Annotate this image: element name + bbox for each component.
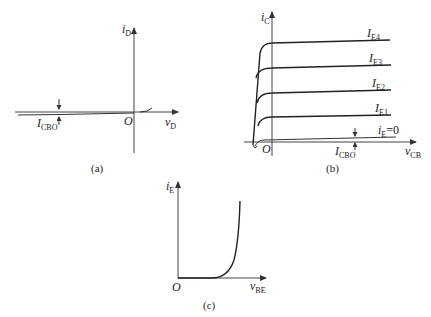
- icbo-label-a: ICBO: [36, 116, 58, 132]
- label-ie0: iE=0: [378, 123, 399, 139]
- curve-ie2: [257, 90, 391, 103]
- caption-b: (b): [326, 162, 339, 175]
- panel-b: iC vCB O IE4 IE3 IE2 IE1 iE=0 ICBO (b): [244, 10, 421, 175]
- curve-a-reverse: [18, 113, 134, 115]
- x-axis-label-c: vBE: [250, 279, 266, 295]
- y-axis-label-b: iC: [261, 10, 270, 26]
- diagram-canvas: iD vD O ICBO (a) iC vCB O IE4 IE3 IE2 IE…: [0, 0, 431, 317]
- label-ie4: IE4: [366, 26, 380, 42]
- panel-c: iE vBE O (c): [166, 179, 266, 312]
- origin-label-c: O: [172, 280, 181, 294]
- x-axis-label-a: vD: [165, 115, 176, 131]
- y-axis-label-c: iE: [166, 179, 174, 195]
- label-ie2: IE2: [371, 76, 385, 92]
- origin-label-b: O: [262, 142, 271, 156]
- caption-c: (c): [203, 299, 216, 312]
- curve-a-forward: [140, 108, 152, 112]
- label-ie1: IE1: [374, 101, 388, 117]
- caption-a: (a): [91, 162, 104, 175]
- curve-ie3: [256, 65, 391, 78]
- label-ie3: IE3: [368, 51, 382, 67]
- panel-a: iD vD O ICBO (a): [15, 22, 178, 175]
- origin-label-a: O: [124, 114, 133, 128]
- x-axis-label-b: vCB: [405, 144, 421, 160]
- y-axis-label-a: iD: [122, 22, 131, 38]
- icbo-label-b: ICBO: [334, 144, 356, 160]
- curve-ie1: [258, 115, 391, 126]
- curve-c: [178, 201, 240, 278]
